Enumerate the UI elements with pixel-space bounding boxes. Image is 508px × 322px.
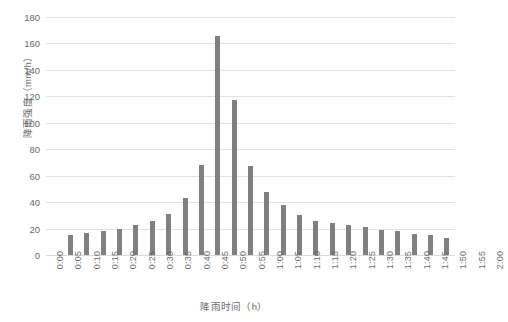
bar-slot xyxy=(373,17,389,255)
bar-slot xyxy=(177,17,193,255)
bar-slot xyxy=(46,17,62,255)
bar xyxy=(183,198,188,255)
bar xyxy=(199,165,204,255)
x-tick-label: 2:00 xyxy=(495,251,508,269)
y-tick-0: 0 xyxy=(35,250,40,261)
bar-slot xyxy=(324,17,340,255)
y-tick-140: 140 xyxy=(24,64,40,75)
plot-area xyxy=(46,17,455,255)
y-tick-60: 60 xyxy=(29,170,40,181)
bar xyxy=(248,166,253,255)
bar-slot xyxy=(357,17,373,255)
bar-slot xyxy=(291,17,307,255)
bar-slot xyxy=(62,17,78,255)
bar-slot xyxy=(390,17,406,255)
y-tick-160: 160 xyxy=(24,38,40,49)
bar xyxy=(297,215,302,255)
y-tick-40: 40 xyxy=(29,197,40,208)
bar-series xyxy=(46,17,455,255)
bar xyxy=(281,205,286,255)
bar-slot xyxy=(210,17,226,255)
x-axis-tick-labels: 0:000:050:100:150:200:250:300:350:400:45… xyxy=(46,258,455,298)
bar-slot xyxy=(340,17,356,255)
y-tick-180: 180 xyxy=(24,12,40,23)
bar-slot xyxy=(79,17,95,255)
bar-slot xyxy=(422,17,438,255)
bar-slot xyxy=(226,17,242,255)
bar xyxy=(166,214,171,255)
bar-slot xyxy=(406,17,422,255)
bar-slot xyxy=(111,17,127,255)
y-tick-100: 100 xyxy=(24,117,40,128)
bar-slot xyxy=(308,17,324,255)
bar-slot xyxy=(439,17,455,255)
bar-slot xyxy=(95,17,111,255)
bar-slot xyxy=(193,17,209,255)
bar-slot xyxy=(275,17,291,255)
y-tick-120: 120 xyxy=(24,91,40,102)
bar xyxy=(264,192,269,255)
bar-slot xyxy=(128,17,144,255)
bar-slot xyxy=(242,17,258,255)
bar-slot xyxy=(259,17,275,255)
bar xyxy=(232,100,237,255)
bar-slot xyxy=(161,17,177,255)
y-tick-80: 80 xyxy=(29,144,40,155)
y-tick-20: 20 xyxy=(29,223,40,234)
y-axis-tick-labels: 020406080100120140160180 xyxy=(0,17,40,255)
x-axis-title: 降雨时间（h） xyxy=(0,299,468,313)
bar-slot xyxy=(144,17,160,255)
bar xyxy=(215,36,220,255)
x-tick-slot: 0:00 xyxy=(46,258,64,298)
